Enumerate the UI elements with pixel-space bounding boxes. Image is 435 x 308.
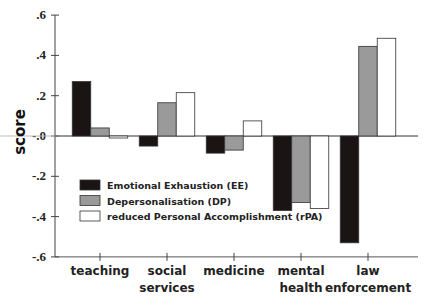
x-category-label: health bbox=[279, 281, 322, 295]
bar-group-medicine bbox=[206, 121, 262, 153]
bar bbox=[243, 121, 262, 136]
legend-label: Emotional Exhaustion (EE) bbox=[107, 180, 248, 191]
x-category-label: teaching bbox=[71, 264, 130, 278]
x-category-label: law bbox=[356, 264, 379, 278]
y-tick-label: -.4 bbox=[32, 209, 47, 224]
y-tick-label: .2 bbox=[36, 88, 46, 103]
bar bbox=[158, 103, 177, 136]
bar bbox=[273, 136, 292, 211]
bar bbox=[310, 136, 329, 209]
bar bbox=[225, 136, 244, 150]
y-tick-label: -.6 bbox=[32, 249, 47, 264]
bar bbox=[206, 136, 225, 153]
bar-group-law-enforcement bbox=[340, 38, 396, 243]
bar bbox=[292, 136, 311, 202]
bar bbox=[340, 136, 359, 243]
legend-swatch bbox=[80, 180, 100, 190]
x-category-label: mental bbox=[277, 264, 324, 278]
legend-swatch bbox=[80, 196, 100, 206]
legend-label: Depersonalisation (DP) bbox=[107, 196, 231, 207]
x-category-label: social bbox=[148, 264, 187, 278]
bar bbox=[72, 82, 91, 136]
bar bbox=[377, 38, 396, 136]
x-category-label: services bbox=[139, 281, 195, 295]
legend-swatch bbox=[80, 211, 100, 221]
bar-group-teaching bbox=[72, 82, 128, 138]
y-tick-label: -.2 bbox=[32, 168, 46, 183]
bar-group-mental-health bbox=[273, 136, 329, 211]
x-category-label: enforcement bbox=[325, 281, 412, 295]
bar bbox=[359, 46, 378, 136]
x-category-label: medicine bbox=[203, 264, 264, 278]
y-tick-label: .4 bbox=[36, 47, 46, 62]
y-axis-label: score bbox=[11, 109, 29, 155]
bar-chart: .6.4.2-.0-.2-.4-.6 teachingsocialservice… bbox=[0, 0, 435, 308]
legend-label: reduced Personal Accomplishment (rPA) bbox=[107, 211, 322, 222]
bar bbox=[91, 128, 110, 136]
bar bbox=[176, 93, 195, 136]
y-tick-label: .6 bbox=[36, 7, 46, 22]
bar bbox=[139, 136, 158, 146]
bar bbox=[109, 136, 128, 138]
bar-group-social-services bbox=[139, 93, 195, 146]
x-axis: teachingsocialservicesmedicinementalheal… bbox=[55, 253, 418, 295]
